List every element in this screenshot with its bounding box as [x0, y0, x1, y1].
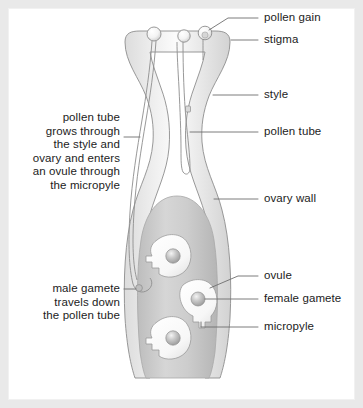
diagram-root: pollen gain stigma style pollen tube ova…	[0, 0, 363, 408]
female-gamete-middle	[191, 292, 205, 306]
label-male-gamete-note: male gamete travels down the pollen tube	[14, 282, 120, 323]
pollen-tube-nucleus	[186, 106, 191, 112]
label-pollen-grain: pollen gain	[264, 11, 321, 25]
label-ovary-wall: ovary wall	[264, 192, 316, 206]
pollen-grain-left	[147, 27, 161, 41]
pollen-grain-middle	[178, 30, 190, 42]
label-stigma: stigma	[264, 33, 298, 47]
label-style: style	[264, 88, 288, 102]
label-pollen-tube: pollen tube	[264, 125, 321, 139]
male-gamete	[136, 285, 143, 292]
female-gamete-upper	[166, 249, 180, 263]
label-female-gamete: female gamete	[264, 292, 341, 306]
pollen-grain-right-inner	[202, 32, 208, 38]
label-micropyle: micropyle	[264, 320, 314, 334]
leader-pollen-grain	[209, 18, 258, 30]
female-gamete-lower	[166, 331, 180, 345]
label-pollen-tube-note: pollen tube grows through the style and …	[14, 111, 120, 192]
label-ovule: ovule	[264, 269, 292, 283]
